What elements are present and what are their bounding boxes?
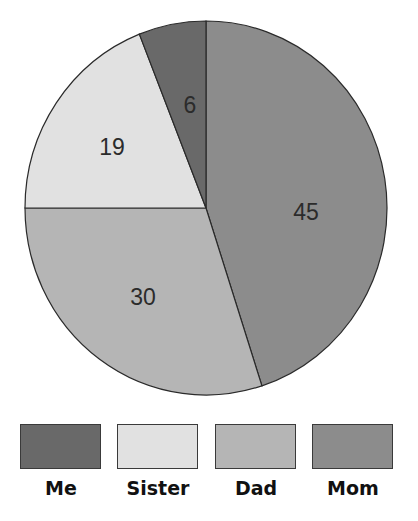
legend-swatch-sister <box>117 424 198 469</box>
legend-swatch-dad <box>215 424 296 469</box>
pie-slices <box>25 21 387 395</box>
legend-label-sister: Sister <box>117 477 199 499</box>
legend: Me Sister Dad Mom <box>0 424 418 504</box>
slice-label-sister: 19 <box>99 134 125 160</box>
legend-swatch-mom <box>312 424 393 469</box>
slice-label-me: 6 <box>184 92 197 118</box>
slice-label-dad: 30 <box>130 284 156 310</box>
slice-label-mom: 45 <box>293 199 319 225</box>
legend-item-sister: Sister <box>117 424 199 499</box>
legend-label-dad: Dad <box>215 477 297 499</box>
legend-item-mom: Mom <box>312 424 394 499</box>
legend-item-dad: Dad <box>215 424 297 499</box>
legend-swatch-me <box>20 424 101 469</box>
legend-label-mom: Mom <box>312 477 394 499</box>
legend-item-me: Me <box>20 424 102 499</box>
legend-label-me: Me <box>20 477 102 499</box>
